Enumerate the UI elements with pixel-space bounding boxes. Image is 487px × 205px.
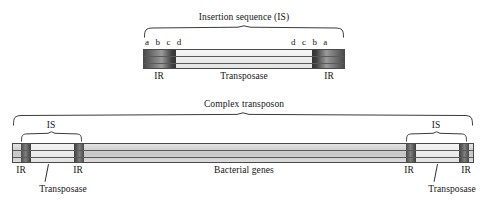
right-is-right-ir-label: IR <box>461 165 471 176</box>
right-is-right-ir-block <box>459 144 469 162</box>
left-is-left-ir-label: IR <box>16 165 26 176</box>
right-is-left-ir-label: IR <box>404 165 414 176</box>
insertion-sequence-title: Insertion sequence (IS) <box>199 12 289 23</box>
complex-transposon-bracket <box>12 112 474 126</box>
strand-line-upper <box>144 56 344 57</box>
left-is-bracket <box>20 131 83 142</box>
right-is-bracket-label: IS <box>432 120 441 131</box>
right-inverted-repeat-bases: d c b a <box>291 37 329 48</box>
figure-canvas: Insertion sequence (IS) a b c d d c b a … <box>0 0 487 205</box>
bacterial-genes-label: Bacterial genes <box>214 165 274 176</box>
left-is-right-ir-label: IR <box>73 165 83 176</box>
left-transposase-label: Transposase <box>39 184 87 195</box>
right-transposase-leader-line <box>434 164 438 182</box>
complex-transposon-bar <box>12 143 474 163</box>
left-inverted-repeat-bases: a b c d <box>145 37 183 48</box>
right-transposase-label: Transposase <box>428 184 476 195</box>
right-inverted-repeat-block <box>312 50 344 68</box>
transposon-strand-line-upper <box>13 150 473 151</box>
left-is-right-ir-block <box>74 144 84 162</box>
insertion-sequence-bar <box>143 49 345 69</box>
left-transposase-leader-line <box>45 164 49 182</box>
complex-transposon-title: Complex transposon <box>204 99 284 110</box>
transposase-label: Transposase <box>220 71 268 82</box>
left-is-bracket-label: IS <box>47 120 56 131</box>
right-is-left-ir-block <box>406 144 416 162</box>
strand-line-lower <box>144 63 344 64</box>
right-is-bracket <box>405 131 468 142</box>
left-is-left-ir-block <box>21 144 31 162</box>
left-ir-label: IR <box>154 71 164 82</box>
right-ir-label: IR <box>324 71 334 82</box>
transposon-strand-line-lower <box>13 157 473 158</box>
left-inverted-repeat-block <box>144 50 176 68</box>
